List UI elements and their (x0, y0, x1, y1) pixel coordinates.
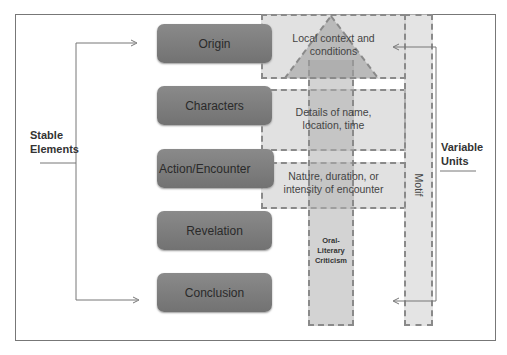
region-text-line: Local context and (261, 32, 406, 45)
region-text-line: location, time (261, 119, 406, 132)
variable-units-label: Variable Units (441, 140, 483, 168)
oral-literary-criticism-label: Oral- Literary Criticism (310, 236, 352, 266)
box-label: Action/Encounter (159, 162, 250, 176)
box-conclusion: Conclusion (157, 273, 272, 312)
box-action-encounter: Action/Encounter (157, 149, 274, 188)
stable-elements-label: Stable Elements (30, 128, 79, 156)
label-line: Literary (310, 246, 352, 256)
box-characters: Characters (157, 86, 272, 125)
label-line: Criticism (310, 256, 352, 266)
box-label: Conclusion (185, 286, 244, 300)
box-origin: Origin (157, 24, 272, 63)
box-revelation: Revelation (157, 211, 272, 250)
box-label: Revelation (186, 224, 243, 238)
region-nature-text: Nature, duration, or intensity of encoun… (261, 170, 406, 196)
label-line: Oral- (310, 236, 352, 246)
label-line: Units (441, 154, 483, 168)
label-line: Stable (30, 128, 79, 142)
region-text-line: conditions (261, 45, 406, 58)
region-local-context-text: Local context and conditions (261, 32, 406, 58)
label-line: Variable (441, 140, 483, 154)
region-text-line: Details of name, (261, 106, 406, 119)
region-text-line: intensity of encounter (261, 183, 406, 196)
region-text-line: Nature, duration, or (261, 170, 406, 183)
box-label: Origin (198, 37, 230, 51)
box-label: Characters (185, 99, 244, 113)
label-line: Elements (30, 142, 79, 156)
region-details-text: Details of name, location, time (261, 106, 406, 132)
